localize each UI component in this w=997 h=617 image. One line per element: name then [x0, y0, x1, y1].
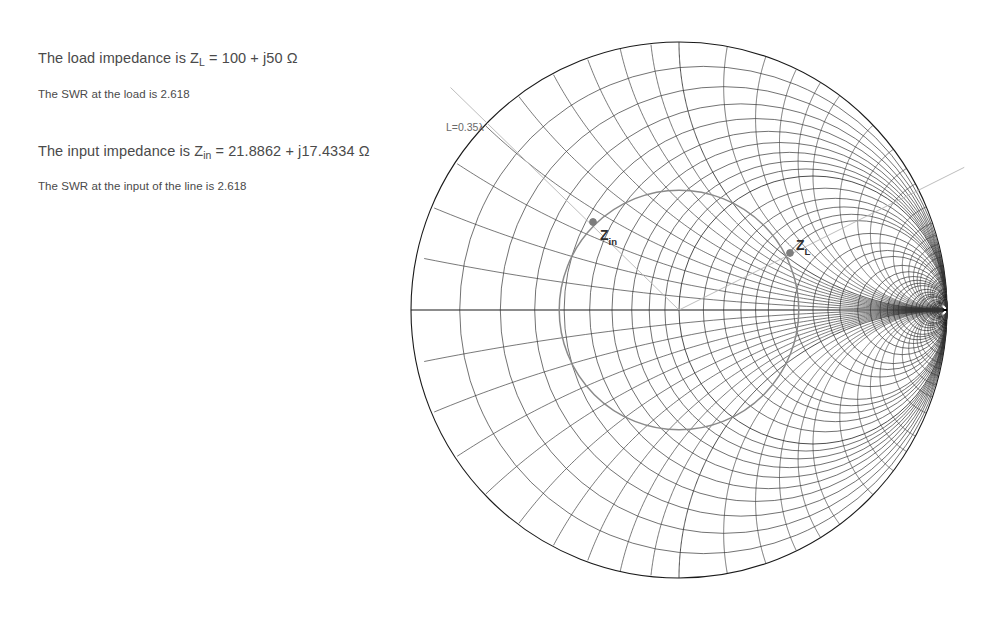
marker-label-sub: in — [609, 236, 618, 247]
marker-Z_in[interactable] — [590, 219, 597, 226]
line-length-label: L=0.35λ — [446, 121, 484, 133]
marker-label-Z_L: ZL — [796, 237, 811, 257]
reactance-arc — [798, 83, 947, 310]
marker-label-sub: L — [805, 246, 811, 257]
smith-annotations-group: L=0.35λ — [446, 121, 484, 133]
smith-chart-plot: ZLZin L=0.35λ — [0, 0, 997, 617]
reactance-arc — [724, 310, 947, 573]
marker-Z_L[interactable] — [787, 250, 794, 257]
reactance-arc — [798, 310, 947, 537]
radial-line-input-radial — [451, 88, 679, 310]
smith-chart-page: The load impedance is ZL = 100 + j50 ΩTh… — [0, 0, 997, 617]
